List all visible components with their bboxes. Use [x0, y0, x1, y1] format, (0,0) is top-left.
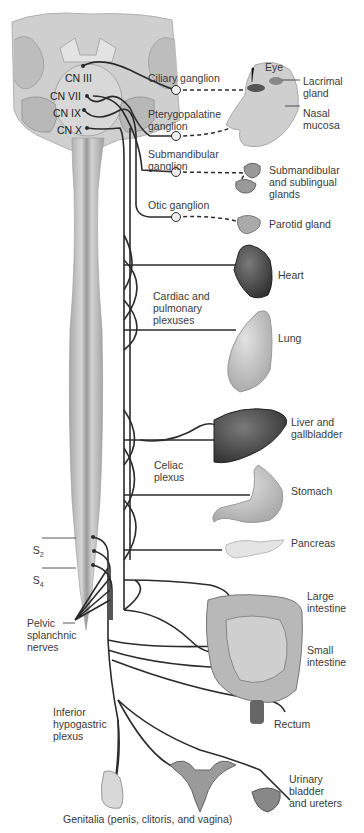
label-eye: Eye — [265, 61, 283, 73]
label-small-intestine: Small intestine — [307, 644, 346, 668]
label-liver: Liver and gallbladder — [291, 416, 342, 440]
submandibular-gland-icon — [244, 163, 260, 178]
label-submandibular-glands: Submandibular and sublingual glands — [269, 164, 340, 200]
otic-ganglion-icon — [172, 213, 181, 222]
label-inferior-hypogastric-plexus: Inferior hypogastric plexus — [53, 706, 107, 742]
parotid-gland-icon — [237, 215, 260, 233]
label-s2-sub: 2 — [40, 551, 44, 558]
lacrimal-gland-icon — [269, 77, 283, 85]
liver-icon — [214, 409, 287, 463]
label-lung: Lung — [278, 332, 301, 344]
label-pelvic-splanchnic-nerves: Pelvic splanchnic nerves — [27, 617, 77, 653]
testes-icon — [101, 771, 123, 808]
label-s2: S2 — [27, 532, 44, 561]
label-submandibular-ganglion: Submandibular ganglion — [148, 148, 219, 172]
pterygopalatine-ganglion-icon — [172, 132, 181, 141]
label-cn10: CN X — [57, 124, 82, 136]
label-heart: Heart — [278, 269, 304, 281]
label-rectum: Rectum — [274, 718, 310, 730]
label-pancreas: Pancreas — [291, 537, 335, 549]
label-otic-ganglion: Otic ganglion — [148, 199, 209, 211]
heart-icon — [234, 245, 272, 298]
label-stomach: Stomach — [291, 485, 332, 497]
lung-icon — [228, 311, 272, 392]
label-s4-sub: 4 — [40, 581, 44, 588]
label-cardiac-plexus: Cardiac and pulmonary plexuses — [153, 290, 210, 326]
sublingual-gland-icon — [236, 179, 256, 193]
label-pterygopalatine-ganglion: Pterygopalatine ganglion — [148, 108, 221, 132]
intestines-icon — [206, 595, 302, 724]
label-urinary-bladder: Urinary bladder and ureters — [289, 773, 342, 809]
label-genitalia: Genitalia (penis, clitoris, and vagina) — [63, 813, 232, 825]
uterus-icon — [170, 761, 236, 812]
label-ciliary-ganglion: Ciliary ganglion — [148, 72, 220, 84]
pancreas-icon — [226, 540, 284, 558]
label-s2-main: S — [33, 544, 40, 556]
ciliary-ganglion-icon — [172, 86, 181, 95]
stomach-icon — [213, 465, 283, 523]
label-s4: S4 — [27, 562, 44, 591]
label-cn3: CN III — [65, 72, 92, 84]
spinal-cord — [69, 138, 104, 630]
rectum-icon — [250, 700, 264, 724]
eye-icon — [247, 84, 265, 92]
label-cn7: CN VII — [50, 90, 81, 102]
urinary-bladder-icon — [252, 788, 280, 812]
label-s4-main: S — [33, 574, 40, 586]
label-large-intestine: Large intestine — [307, 590, 346, 614]
label-lacrimal-gland: Lacrimal gland — [303, 75, 343, 99]
label-nasal-mucosa: Nasal mucosa — [303, 107, 340, 131]
label-cn9: CN IX — [53, 107, 81, 119]
label-parotid-gland: Parotid gland — [269, 218, 331, 230]
label-celiac-plexus: Celiac plexus — [154, 459, 184, 483]
head-profile-icon — [226, 62, 298, 146]
